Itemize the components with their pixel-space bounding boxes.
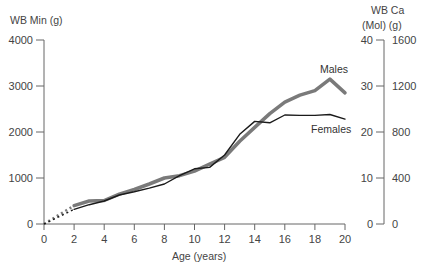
plot-area [44,79,345,224]
x-tick-label: 14 [249,233,261,245]
right-tick-label-mol: 10 [361,172,373,184]
x-tick-label: 8 [161,233,167,245]
y-axis-title-left: WB Min (g) [10,14,63,26]
x-tick-label: 2 [71,233,77,245]
line-chart: WB Min (g) WB Ca (Mol) (g) Age (years) 0… [0,0,422,267]
right-axis: 001040020800301200401600 [361,34,417,230]
right-tick-label-g: 1200 [392,80,416,92]
females-extrapolation [44,209,74,224]
y-axis-title-right-2: (Mol) (g) [362,19,402,31]
series-label-females: Females [311,123,351,135]
right-tick-label-g: 800 [392,126,410,138]
series-line-males [74,79,345,206]
left-axis: 01000200030004000 [9,34,44,230]
x-tick-label: 6 [131,233,137,245]
x-tick-label: 20 [339,233,351,245]
y-tick-label: 1000 [9,172,33,184]
right-tick-label-mol: 40 [361,34,373,46]
right-tick-label-mol: 0 [367,218,373,230]
right-tick-label-mol: 20 [361,126,373,138]
right-tick-label-g: 0 [392,218,398,230]
right-tick-label-g: 400 [392,172,410,184]
series-label-males: Males [320,63,348,75]
x-axis-title: Age (years) [172,250,226,262]
x-tick-label: 12 [218,233,230,245]
y-tick-label: 3000 [9,80,33,92]
x-tick-label: 18 [309,233,321,245]
right-tick-label-g: 1600 [392,34,416,46]
x-tick-label: 16 [279,233,291,245]
y-tick-label: 2000 [9,126,33,138]
x-axis: 02468101214161820 [41,224,351,245]
x-tick-label: 4 [101,233,107,245]
y-tick-label: 0 [27,218,33,230]
x-tick-label: 0 [41,233,47,245]
y-tick-label: 4000 [9,34,33,46]
y-axis-title-right-1: WB Ca [371,4,404,16]
right-tick-label-mol: 30 [361,80,373,92]
x-tick-label: 10 [188,233,200,245]
